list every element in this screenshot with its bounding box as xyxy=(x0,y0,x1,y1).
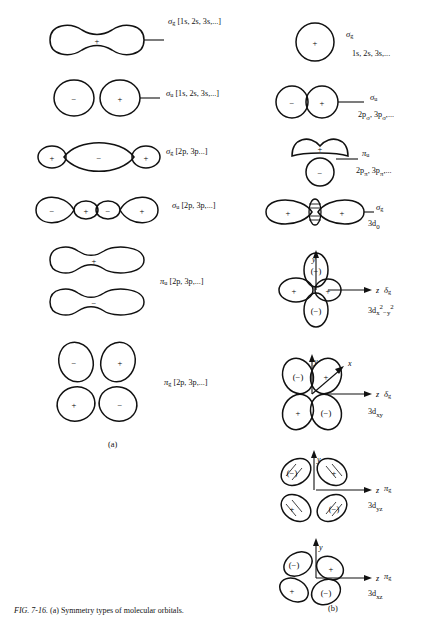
label-pi-u-2p: πu [2p, 3p,...] xyxy=(160,277,204,287)
pi-g-xz-shape: (−) + + (−) y z xyxy=(276,538,384,614)
sigma-u-two-circles-shape: − + xyxy=(52,78,162,118)
orbital-diagram-b-pi-u-p: + − xyxy=(286,132,360,188)
pi-stacked-circles-shape: + − xyxy=(286,132,360,188)
orbital-diagram-b-sigma-g-3d0: + + xyxy=(262,190,374,234)
lobe-sign-minus: − xyxy=(50,206,55,216)
orbital-diagram-b-delta-g-x2y2: (−) (−) + + y z xyxy=(276,250,384,330)
orbital-diagram-pi-g-2p: − + + − xyxy=(52,340,152,428)
figure-caption-text: (a) Symmetry types of molecular orbitals… xyxy=(50,606,184,615)
basis-pi-u-2p: [2p, 3p,...] xyxy=(169,277,203,286)
orbital-diagram-b-sigma-g-s: + xyxy=(290,20,350,64)
axis-label-y: y xyxy=(311,255,316,264)
lobe-sign-minus: − xyxy=(118,400,123,410)
lobe-sign-minus: − xyxy=(106,206,111,216)
figure-caption-label: FIG. 7-16. xyxy=(14,606,48,615)
axis-label-z: z xyxy=(375,286,380,295)
label-b-sigma-g: σg xyxy=(346,30,353,40)
basis-sigma-g-2p: [2p, 3p...] xyxy=(175,147,207,156)
panel-a-caption: (a) xyxy=(108,440,117,449)
lobe-sign-minus-paren: (−) xyxy=(287,468,298,478)
lobe-sign-plus: + xyxy=(118,94,123,104)
lobe-sign-plus: + xyxy=(296,408,301,418)
label-b-sigma-u: σu xyxy=(370,93,377,103)
orbital-diagram-b-pi-g-xz: (−) + + (−) y z xyxy=(276,538,384,614)
lobe-sign-plus: + xyxy=(286,208,291,218)
label-b-pi-g-xz: πg xyxy=(384,572,391,582)
orbital-diagram-sigma-g-2p: + − + xyxy=(34,136,164,178)
orbital-diagram-sigma-g-1s: + xyxy=(40,18,170,62)
axis-label-x: x xyxy=(347,359,352,368)
orbital-diagram-b-pi-g-yz: (−) + + (−) y z xyxy=(276,450,384,530)
lobe-sign-minus-paren: (−) xyxy=(311,266,322,276)
lobe-sign-minus-paren: (−) xyxy=(311,306,322,316)
pi-g-four-lobe-shape: − + + − xyxy=(52,340,152,428)
lobe-sign-plus: + xyxy=(144,153,149,163)
orbital-b-3d0: 3d0 xyxy=(368,219,380,230)
lobe-sign-plus: + xyxy=(292,286,297,296)
orbital-diagram-pi-u-2p: + − xyxy=(44,240,156,324)
lobe-sign-plus: + xyxy=(320,98,325,108)
orbital-b-3dxy: 3dxy xyxy=(368,407,383,418)
lobe-sign-plus: + xyxy=(329,564,334,574)
axis-label-z: z xyxy=(375,486,380,495)
label-b-sigma-g-3d0: σg xyxy=(376,203,383,213)
orbital-diagram-b-delta-g-xy: (−) + + (−) y x z xyxy=(276,352,384,434)
lobe-sign-minus: − xyxy=(290,98,295,108)
lobe-sign-plus: + xyxy=(340,208,345,218)
basis-sigma-g-1s: [1s, 2s, 3s,...] xyxy=(177,17,221,26)
orbital-b-3dxz: 3dxz xyxy=(368,589,383,600)
orbital-b-3dyz: 3dyz xyxy=(368,501,383,512)
figure-molecular-orbital-symmetries: + σg [1s, 2s, 3s,...] − + σu [1s, 2s, 3s… xyxy=(0,0,435,624)
lobe-sign-minus: − xyxy=(97,153,102,163)
lobe-sign-plus: + xyxy=(92,256,97,266)
lobe-sign-plus: + xyxy=(50,153,55,163)
figure-caption: FIG. 7-16. (a) Symmetry types of molecul… xyxy=(14,606,184,615)
pi-u-two-peanuts-shape: + − xyxy=(44,240,156,324)
lobe-sign-minus: − xyxy=(72,358,77,368)
orbital-b-sigma-u-p: 2pσ, 3pσ,... xyxy=(358,110,394,121)
delta-g-x2y2-shape: (−) (−) + + y z xyxy=(276,250,384,330)
lobe-sign-plus: + xyxy=(290,586,295,596)
orbital-diagram-b-sigma-u-p: − + xyxy=(272,82,368,122)
lobe-sign-plus: + xyxy=(140,206,145,216)
lobe-sign-minus: − xyxy=(72,94,77,104)
lobe-sign-plus: + xyxy=(118,358,123,368)
axis-label-y: y xyxy=(318,543,323,552)
lobe-sign-plus: + xyxy=(324,372,329,382)
axis-label-z: z xyxy=(375,574,380,583)
axis-label-z: z xyxy=(375,390,380,399)
orbital-b-pi-u-p: 2pπ, 3pπ,... xyxy=(356,166,392,177)
lobe-sign-plus: + xyxy=(290,504,295,514)
label-sigma-g-1s: σg [1s, 2s, 3s,...] xyxy=(168,17,221,27)
lobe-sign-minus: − xyxy=(318,168,323,178)
orbital-diagram-sigma-u-1s: − + xyxy=(52,78,162,118)
lobe-sign-minus: − xyxy=(92,298,97,308)
label-b-pi-g-yz: πg xyxy=(384,484,391,494)
lobe-sign-plus: + xyxy=(332,468,337,478)
label-sigma-u-2p: σu [2p, 3p,...] xyxy=(172,201,216,211)
single-circle-shape: + xyxy=(290,20,350,64)
lobe-sign-plus: + xyxy=(84,206,89,216)
basis-sigma-u-2p: [2p, 3p,...] xyxy=(181,201,215,210)
sigma-u-four-lobe-shape: − + − + xyxy=(30,190,168,230)
lobe-sign-minus-paren: (−) xyxy=(289,560,300,570)
label-sigma-u-1s: σu [1s, 2s, 3s,...] xyxy=(166,89,219,99)
lobe-sign-plus: + xyxy=(95,36,100,46)
label-b-delta-g-xy: δg xyxy=(384,390,391,400)
orbital-b-sigma-g-s: 1s, 2s, 3s,... xyxy=(352,49,390,58)
delta-g-xy-shape: (−) + + (−) y x z xyxy=(276,352,384,434)
label-pi-g-2p: πg [2p, 3p,...] xyxy=(164,378,208,388)
label-sigma-g-2p: σg [2p, 3p...] xyxy=(166,147,207,157)
axis-label-y: y xyxy=(313,357,318,366)
basis-sigma-u-1s: [1s, 2s, 3s,...] xyxy=(175,89,219,98)
lobe-sign-plus: + xyxy=(72,400,77,410)
label-b-pi-u: πu xyxy=(362,149,369,159)
leader-line xyxy=(144,38,166,42)
lobe-sign-plus: + xyxy=(326,286,331,296)
two-circles-shape: − + xyxy=(272,82,368,122)
axis-label-y: y xyxy=(316,455,321,464)
lobe-sign-minus-paren: (−) xyxy=(321,408,332,418)
lobe-sign-minus-paren: (−) xyxy=(321,588,332,598)
sigma-g-3d0-shape: + + xyxy=(262,190,374,234)
lobe-sign-minus-paren: (−) xyxy=(329,504,340,514)
